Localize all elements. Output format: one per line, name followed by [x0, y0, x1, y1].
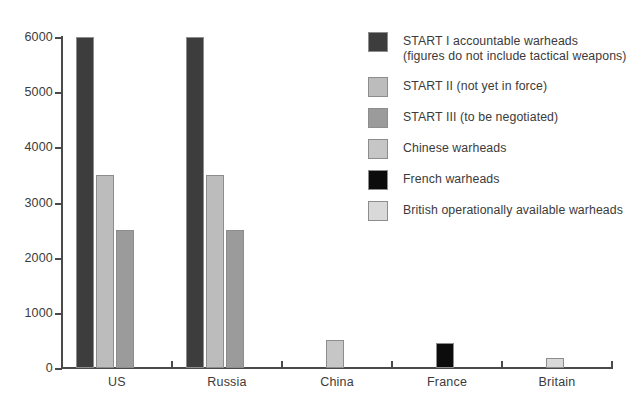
legend-item: French warheads: [368, 170, 500, 190]
legend-item-label: French warheads: [403, 170, 500, 187]
legend-item: British operationally available warheads: [368, 201, 623, 221]
x-axis-category-label: Britain: [539, 375, 576, 389]
bar: [116, 230, 134, 368]
legend-swatch-icon: [368, 108, 388, 128]
legend-item-label: START II (not yet in force): [403, 77, 547, 94]
y-axis-tick: [55, 258, 62, 260]
legend-item: START I accountable warheads (figures do…: [368, 32, 627, 63]
x-axis-tick: [281, 361, 283, 369]
y-axis-tick: [55, 92, 62, 94]
x-axis-category-label: France: [427, 375, 467, 389]
bar: [96, 175, 114, 368]
legend-swatch-icon: [368, 77, 388, 97]
legend-item: Chinese warheads: [368, 139, 506, 159]
legend-item: START III (to be negotiated): [368, 108, 558, 128]
y-axis-tick-label: 5000: [24, 85, 53, 99]
bar-chart: 0100020003000400050006000 START I accoun…: [0, 0, 637, 409]
x-axis-category-label: US: [108, 375, 126, 389]
legend-item: START II (not yet in force): [368, 77, 547, 97]
legend-swatch-icon: [368, 170, 388, 190]
bar: [76, 37, 94, 368]
bar: [186, 37, 204, 368]
bar: [326, 340, 344, 368]
legend-swatch-icon: [368, 201, 388, 221]
x-axis-category-label: Russia: [207, 375, 246, 389]
y-axis-tick-label: 3000: [24, 196, 53, 210]
y-axis-tick: [55, 37, 62, 39]
y-axis-tick-label: 0: [46, 361, 53, 375]
x-axis-category-label: China: [320, 375, 354, 389]
x-axis-tick: [391, 361, 393, 369]
legend-item-label: START III (to be negotiated): [403, 108, 558, 125]
y-axis-tick: [55, 313, 62, 315]
legend-swatch-icon: [368, 139, 388, 159]
y-axis-tick-label: 4000: [24, 140, 53, 154]
y-axis-tick-label: 6000: [24, 30, 53, 44]
legend-item-label: British operationally available warheads: [403, 201, 623, 218]
y-axis-tick-label: 1000: [24, 306, 53, 320]
bar: [546, 358, 564, 368]
legend-swatch-icon: [368, 32, 388, 52]
bar: [436, 343, 454, 368]
x-axis-tick: [611, 361, 613, 369]
x-axis-tick: [501, 361, 503, 369]
legend-item-label: START I accountable warheads (figures do…: [403, 32, 627, 63]
y-axis-tick: [55, 368, 62, 370]
bar: [206, 175, 224, 368]
y-axis-tick: [55, 203, 62, 205]
x-axis-tick: [171, 361, 173, 369]
legend-item-label: Chinese warheads: [403, 139, 506, 156]
y-axis-tick-label: 2000: [24, 251, 53, 265]
bar: [226, 230, 244, 368]
y-axis-tick: [55, 147, 62, 149]
